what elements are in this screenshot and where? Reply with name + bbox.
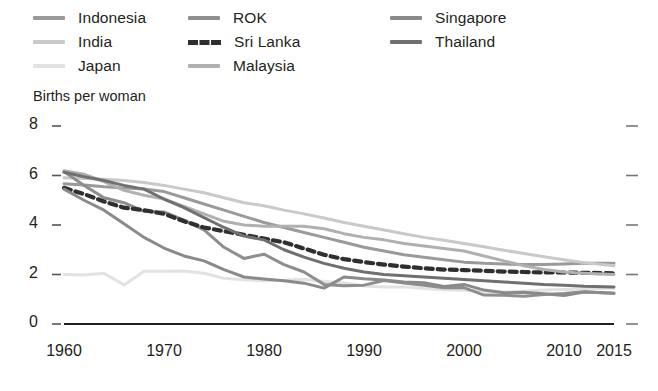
fertility-line-chart: IndonesiaIndiaJapan ROKSri LankaMalaysia… xyxy=(0,0,658,391)
x-tick-label: 2000 xyxy=(434,342,494,360)
x-tick-label: 1990 xyxy=(334,342,394,360)
series-line-sri-lanka xyxy=(64,188,614,273)
series-line-japan xyxy=(64,271,614,292)
x-tick-label: 2015 xyxy=(584,342,644,360)
y-tick-label: 0 xyxy=(16,313,38,331)
plot-area: 024681960197019801990200020102015 xyxy=(0,0,658,391)
y-tick-label: 6 xyxy=(16,165,38,183)
x-tick-label: 1970 xyxy=(134,342,194,360)
y-tick-label: 4 xyxy=(16,214,38,232)
x-tick-label: 1980 xyxy=(234,342,294,360)
series-line-thailand xyxy=(64,172,614,287)
plot-svg xyxy=(0,0,658,391)
y-tick-label: 8 xyxy=(16,115,38,133)
y-tick-label: 2 xyxy=(16,264,38,282)
x-tick-label: 1960 xyxy=(34,342,94,360)
